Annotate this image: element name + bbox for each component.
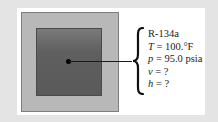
- state-properties-list: R-134a T = 100.°F p = 95.0 psia v = ? h …: [148, 28, 202, 91]
- property-pressure: p = 95.0 psia: [148, 53, 202, 66]
- property-enthalpy: h = ?: [148, 78, 202, 91]
- substance-label: R-134a: [148, 28, 202, 41]
- curly-brace-icon: [132, 27, 144, 95]
- property-specific-volume: v = ?: [148, 66, 202, 79]
- leader-line: [69, 61, 132, 62]
- property-temperature: T = 100.°F: [148, 41, 202, 54]
